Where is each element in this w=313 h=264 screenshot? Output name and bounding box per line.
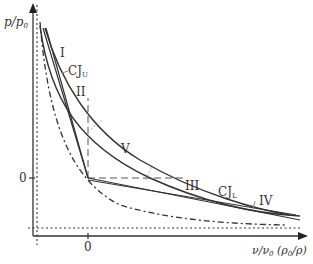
cj-upper-label: CJU <box>68 65 88 79</box>
y-tick-zero-label: 0 <box>19 172 27 184</box>
x-axis-arrow-icon <box>298 232 308 240</box>
x-tick-zero-label: 0 <box>84 241 92 253</box>
region-IV-label: IV <box>259 195 272 207</box>
region-II-label: II <box>76 86 85 98</box>
hugoniot-branch-upper <box>45 28 290 215</box>
region-V-label: V <box>121 143 130 155</box>
cj-lower-label: CJL <box>218 186 237 200</box>
y-axis-label: p/p0 <box>4 16 28 30</box>
region-I-label: I <box>60 47 65 59</box>
y-axis-arrow-icon <box>29 3 37 13</box>
hugoniot-diagram <box>0 0 313 264</box>
x-axis-label: ν/ν0 (ρ0/ρ) <box>252 245 307 258</box>
rayleigh-line-upper-2 <box>46 28 88 178</box>
region-III-label: III <box>185 180 199 192</box>
detonation-hugoniot-curve <box>40 26 300 216</box>
